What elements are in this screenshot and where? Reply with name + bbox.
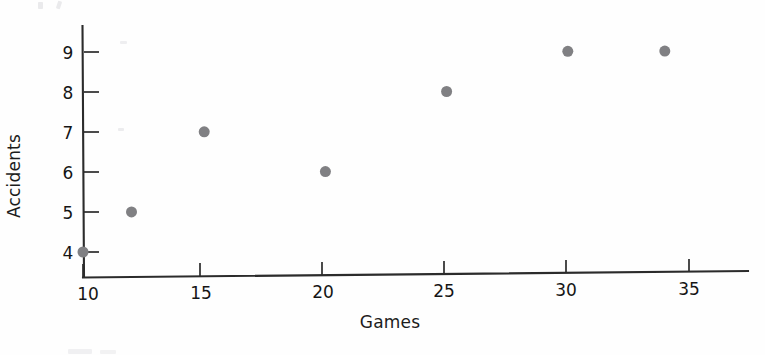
x-axis-title: Games — [360, 312, 420, 332]
y-axis-title: Accidents — [4, 134, 24, 218]
x-tick-label-10: 10 — [77, 284, 99, 304]
data-point — [659, 46, 670, 57]
y-tick-label-4: 4 — [63, 243, 74, 263]
y-tick-label-5: 5 — [63, 203, 74, 223]
x-tick-label-30: 30 — [555, 280, 577, 300]
y-tick-label-9: 9 — [63, 43, 74, 63]
y-tick-label-6: 6 — [63, 163, 74, 183]
x-axis-line — [83, 271, 748, 278]
x-tick-label-35: 35 — [678, 279, 700, 299]
data-point — [199, 126, 210, 137]
y-tick-label-7: 7 — [63, 123, 74, 143]
y-axis-line — [83, 26, 85, 277]
data-point — [78, 247, 89, 258]
scatter-plot-figure: 9 8 7 6 5 4 10 15 20 25 30 35 Accidents … — [0, 0, 765, 355]
data-point — [320, 166, 331, 177]
y-axis-ticks — [84, 52, 99, 252]
x-tick-label-25: 25 — [433, 281, 455, 301]
data-point — [562, 46, 573, 57]
plot-canvas — [0, 0, 765, 355]
x-tick-label-20: 20 — [312, 282, 334, 302]
data-point — [126, 206, 137, 217]
data-point-group — [78, 46, 671, 258]
y-tick-label-8: 8 — [63, 83, 74, 103]
data-point — [441, 86, 452, 97]
x-tick-label-15: 15 — [190, 283, 212, 303]
